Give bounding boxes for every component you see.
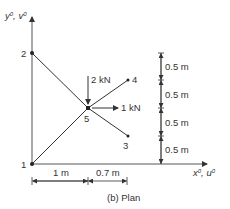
- node-4-dot: [127, 79, 130, 82]
- node-1-dot: [30, 162, 34, 166]
- node-1-label: 1: [21, 159, 26, 170]
- x-axis-label: x0, u0: [192, 167, 216, 178]
- vertical-dimensions: [158, 53, 164, 164]
- dim-vertical-4: 0.5 m: [165, 144, 189, 155]
- dim-vertical-2: 0.5 m: [165, 89, 189, 100]
- load-horizontal-label: 1 kN: [121, 102, 141, 113]
- node-2-label: 2: [21, 48, 26, 59]
- y-axis-label: y0, v0: [4, 10, 27, 21]
- node-3-label: 3: [123, 140, 128, 151]
- node-5-dot: [86, 106, 90, 110]
- node-5-label: 5: [84, 113, 89, 124]
- truss-plan-diagram: 1 2 3 4 5 2 kN 1 kN 0.5 m 0.5 m 0.5 m 0.…: [0, 0, 230, 209]
- member-2-5: [32, 53, 88, 108]
- dim-vertical-3: 0.5 m: [165, 117, 189, 128]
- dim-horizontal-2: 0.7 m: [96, 167, 120, 178]
- horizontal-dimensions: [32, 177, 127, 185]
- load-vertical-label: 2 kN: [91, 74, 111, 85]
- member-1-5: [32, 108, 88, 164]
- figure-caption: (b) Plan: [107, 192, 140, 203]
- node-4-label: 4: [132, 74, 137, 85]
- node-3-dot: [127, 135, 130, 138]
- dim-horizontal-1: 1 m: [53, 167, 69, 178]
- dim-vertical-1: 0.5 m: [165, 61, 189, 72]
- node-2-dot: [30, 51, 34, 55]
